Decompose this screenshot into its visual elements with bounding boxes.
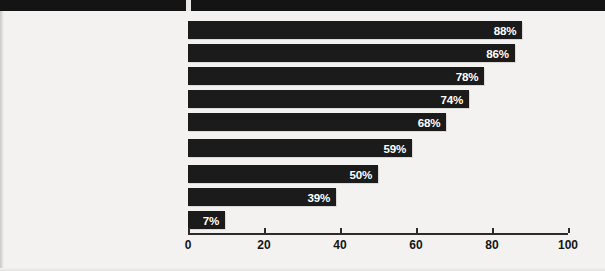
bar-value-label: 50% [349, 168, 372, 181]
bar-value-label: 7% [203, 214, 219, 227]
bar-value-label: 39% [308, 191, 331, 204]
x-axis-tick [416, 228, 418, 233]
x-axis-tick-label: 0 [185, 238, 192, 252]
bar-value-label: 86% [486, 47, 509, 60]
bar-value-label: 78% [456, 70, 479, 83]
x-axis-tick-label: 40 [333, 238, 346, 252]
bar-value-label: 59% [384, 142, 407, 155]
bar: 50% [188, 165, 378, 183]
x-axis-tick [188, 228, 190, 233]
bar: 86% [188, 44, 515, 62]
x-axis-tick [264, 228, 266, 233]
bar: 88% [188, 21, 522, 39]
header-band-notch [186, 0, 191, 11]
chart-figure: Criminal records check88%Employment veri… [0, 0, 605, 271]
bar: 39% [188, 188, 336, 206]
bar: 78% [188, 67, 484, 85]
x-axis-tick [340, 228, 342, 233]
x-axis [188, 233, 568, 235]
bar: 7% [188, 211, 225, 229]
x-axis-tick-label: 80 [485, 238, 498, 252]
bar-value-label: 88% [494, 24, 517, 37]
x-axis-tick [568, 228, 570, 233]
bar-value-label: 74% [441, 93, 464, 106]
header-band [0, 0, 605, 11]
x-axis-tick-label: 100 [558, 238, 578, 252]
bar: 68% [188, 113, 446, 131]
x-axis-tick [492, 228, 494, 233]
bar: 59% [188, 139, 412, 157]
bar-value-label: 68% [418, 116, 441, 129]
bar-chart-plot-area: Criminal records check88%Employment veri… [0, 11, 605, 271]
x-axis-tick-label: 20 [257, 238, 270, 252]
x-axis-tick-label: 60 [409, 238, 422, 252]
bar: 74% [188, 90, 469, 108]
